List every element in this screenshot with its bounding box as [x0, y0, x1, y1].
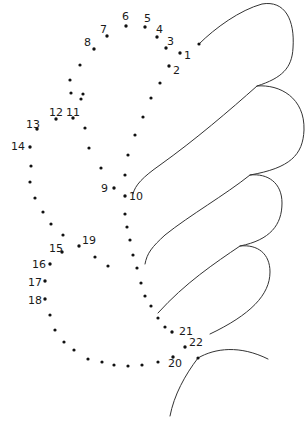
numbered-point-8: 8 — [84, 36, 96, 51]
dot — [62, 340, 65, 343]
numbered-point-13: 13 — [26, 118, 40, 131]
point-label: 2 — [173, 64, 180, 77]
dot — [126, 153, 129, 156]
dot — [149, 96, 152, 99]
dot — [126, 364, 129, 367]
dot — [131, 253, 134, 256]
point-dot — [48, 262, 51, 265]
point-dot — [28, 145, 31, 148]
point-label: 4 — [156, 23, 163, 36]
dot — [158, 81, 161, 84]
numbered-point-12: 12 — [49, 106, 63, 121]
outline-curve — [145, 86, 304, 264]
point-label: 10 — [129, 190, 143, 203]
point-label: 5 — [144, 12, 151, 25]
point-label: 7 — [100, 23, 107, 36]
point-dot — [143, 25, 146, 28]
outline-curve — [198, 349, 268, 359]
outline-curve — [158, 175, 282, 313]
numbered-point-16: 16 — [32, 258, 52, 271]
dot — [139, 281, 142, 284]
dot — [61, 233, 64, 236]
numbered-point-17: 17 — [28, 276, 47, 289]
numbered-points: 12345678910111213141516171819202122 — [11, 10, 203, 370]
hand-outline-curves — [133, 3, 304, 416]
dot — [149, 304, 152, 307]
dot — [41, 210, 44, 213]
point-dot — [123, 194, 126, 197]
dot — [78, 63, 81, 66]
point-dot — [43, 279, 46, 282]
numbered-point-18: 18 — [28, 294, 47, 307]
dot — [140, 363, 143, 366]
point-dot — [112, 186, 115, 189]
point-dot — [124, 24, 127, 27]
dot — [49, 222, 52, 225]
numbered-point-20: 20 — [168, 355, 182, 370]
dot — [123, 212, 126, 215]
dot — [69, 91, 72, 94]
dot — [125, 225, 128, 228]
numbered-point-4: 4 — [155, 23, 163, 39]
point-label: 15 — [49, 242, 63, 255]
numbered-point-9: 9 — [101, 182, 116, 195]
dot — [33, 196, 36, 199]
dot — [99, 166, 102, 169]
dot — [196, 356, 199, 359]
dot — [156, 316, 159, 319]
dot — [53, 328, 56, 331]
dot — [48, 313, 51, 316]
dot — [29, 164, 32, 167]
numbered-point-14: 14 — [11, 140, 32, 153]
dot — [100, 360, 103, 363]
point-label: 11 — [66, 106, 80, 119]
dot — [163, 325, 166, 328]
dot-to-dot-canvas: 12345678910111213141516171819202122 — [0, 0, 308, 426]
dot — [112, 363, 115, 366]
point-label: 13 — [26, 118, 40, 131]
dot — [83, 126, 86, 129]
point-label: 20 — [168, 357, 182, 370]
point-label: 16 — [32, 258, 46, 271]
numbered-point-19: 19 — [77, 234, 96, 248]
point-label: 18 — [28, 294, 42, 307]
dot — [133, 133, 136, 136]
point-dot — [170, 330, 173, 333]
point-dot — [92, 47, 95, 50]
point-label: 8 — [84, 36, 91, 49]
unnumbered-dots — [28, 42, 200, 367]
dot — [128, 238, 131, 241]
numbered-point-5: 5 — [143, 12, 151, 29]
numbered-point-10: 10 — [123, 190, 143, 203]
point-label: 17 — [28, 276, 42, 289]
point-label: 3 — [167, 35, 174, 48]
point-label: 1 — [184, 49, 191, 62]
dot — [143, 294, 146, 297]
dot — [87, 146, 90, 149]
dot — [141, 115, 144, 118]
dot — [86, 357, 89, 360]
point-label: 12 — [49, 106, 63, 119]
numbered-point-2: 2 — [167, 64, 180, 77]
point-dot — [77, 244, 80, 247]
dot — [197, 42, 200, 45]
dot — [81, 92, 84, 95]
point-dot — [43, 297, 46, 300]
outline-curve — [210, 246, 270, 334]
point-dot — [167, 64, 170, 67]
numbered-point-3: 3 — [164, 35, 174, 50]
point-label: 22 — [189, 336, 203, 349]
dot — [28, 180, 31, 183]
dot — [106, 264, 109, 267]
point-label: 6 — [122, 10, 129, 23]
numbered-point-11: 11 — [66, 106, 80, 120]
point-dot — [183, 345, 186, 348]
dot — [123, 173, 126, 176]
numbered-point-1: 1 — [178, 49, 191, 62]
numbered-point-7: 7 — [100, 23, 109, 38]
dot — [72, 348, 75, 351]
numbered-point-6: 6 — [122, 10, 129, 28]
dot — [68, 78, 71, 81]
point-label: 9 — [101, 182, 108, 195]
dot — [135, 266, 138, 269]
